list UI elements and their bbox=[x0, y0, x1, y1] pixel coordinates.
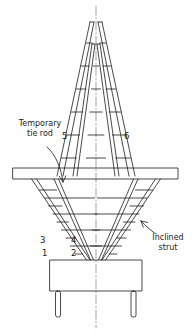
lower-left-outer-strut-member-3 bbox=[32, 179, 91, 260]
base-leg-left bbox=[56, 291, 61, 317]
upper-left-strut-member-5 bbox=[57, 22, 94, 176]
base-leg-right bbox=[131, 291, 136, 317]
lower-right-inner-strut bbox=[99, 179, 139, 260]
temporary-tie-rod-leader bbox=[47, 147, 66, 182]
member-number-2: 2 bbox=[71, 249, 76, 258]
truss-diagram bbox=[0, 0, 192, 331]
member-number-3: 3 bbox=[40, 236, 45, 245]
inclined-strut-label-line1: Inclined bbox=[145, 233, 191, 243]
upper-right-strut-member-6 bbox=[98, 22, 135, 176]
temporary-tie-rod-label-line1: Temporary bbox=[8, 119, 72, 129]
inclined-strut-label-line2: strut bbox=[145, 243, 191, 253]
member-number-6: 6 bbox=[124, 132, 129, 141]
inclined-strut-label: Inclined strut bbox=[145, 233, 191, 252]
member-number-4: 4 bbox=[71, 236, 76, 245]
lower-right-rungs bbox=[91, 190, 153, 254]
member-number-1: 1 bbox=[42, 249, 47, 258]
horizontal-beam bbox=[13, 168, 178, 179]
member-number-5: 5 bbox=[62, 132, 67, 141]
